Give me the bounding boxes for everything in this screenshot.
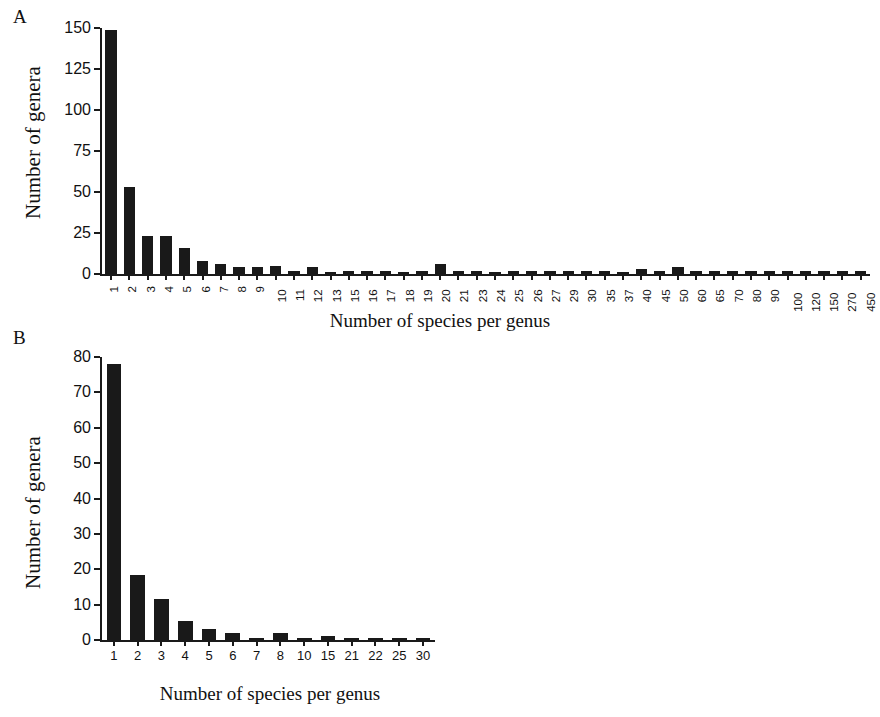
panel-b-plot-area: 01020304050607080 12345678101521222530 [100, 357, 435, 642]
bar [489, 272, 500, 274]
bar-slot [212, 28, 230, 274]
y-tick-label: 0 [82, 632, 91, 648]
x-tick-mark [232, 642, 234, 646]
x-tick-label: 2 [134, 649, 141, 662]
x-tick-label: 30 [416, 649, 430, 662]
bar-slot [760, 28, 778, 274]
x-tick-label: 100 [792, 293, 804, 312]
y-tick-label: 0 [82, 266, 91, 282]
bar [273, 633, 288, 640]
bar-slot [245, 357, 269, 640]
x-tick-mark [202, 276, 204, 280]
panel-a: A Number of genera 0255075100125150 1234… [0, 0, 880, 340]
panel-b-letter: B [13, 327, 26, 349]
bar-slot [193, 28, 211, 274]
bar [526, 271, 537, 274]
y-tick-mark [94, 109, 100, 111]
bar-slot [486, 28, 504, 274]
x-tick-label: 20 [442, 289, 454, 302]
x-tick-mark [238, 276, 240, 280]
bar [818, 271, 829, 274]
bar [544, 271, 555, 274]
bar-slot [267, 28, 285, 274]
y-tick-mark [94, 498, 100, 500]
y-tick-mark [94, 68, 100, 70]
x-tick-mark [327, 642, 329, 646]
x-tick-label: 7 [253, 649, 260, 662]
bar [233, 267, 244, 274]
panel-a-bars [102, 28, 870, 274]
bar-slot [742, 28, 760, 274]
bar-slot [126, 357, 150, 640]
x-tick-label: 2 [128, 286, 140, 292]
x-tick-label: 120 [810, 293, 822, 312]
x-tick-label: 12 [314, 289, 326, 302]
x-tick-label: 45 [661, 289, 673, 302]
x-tick-label: 270 [847, 293, 859, 312]
bar-slot [395, 28, 413, 274]
bar-slot [197, 357, 221, 640]
x-tick-label: 1 [110, 649, 117, 662]
bar-slot [175, 28, 193, 274]
y-tick-label: 80 [73, 349, 91, 365]
x-tick-label: 4 [182, 649, 189, 662]
bar-slot [596, 28, 614, 274]
bar [178, 621, 193, 640]
x-tick-mark [147, 276, 149, 280]
y-tick-label: 50 [73, 184, 91, 200]
x-tick-label: 23 [478, 289, 490, 302]
x-tick-mark [823, 276, 825, 280]
x-tick-mark [677, 276, 679, 280]
x-tick-label: 3 [146, 286, 158, 292]
bar-slot [248, 28, 266, 274]
figure-container: A Number of genera 0255075100125150 1234… [0, 0, 880, 717]
bar [105, 30, 116, 274]
bar-slot [778, 28, 796, 274]
bar [344, 638, 359, 640]
x-tick-mark [330, 276, 332, 280]
bar-slot [285, 28, 303, 274]
bar [368, 638, 383, 640]
y-tick-mark [94, 273, 100, 275]
x-tick-label: 22 [368, 649, 382, 662]
x-tick-label: 19 [423, 289, 435, 302]
bar-slot [292, 357, 316, 640]
y-tick-label: 50 [73, 455, 91, 471]
x-tick-mark [348, 276, 350, 280]
bar [197, 261, 208, 274]
bar [398, 272, 409, 274]
x-tick-mark [494, 276, 496, 280]
bar [453, 271, 464, 274]
x-tick-mark [351, 642, 353, 646]
x-tick-mark [713, 276, 715, 280]
bar-slot [139, 28, 157, 274]
bar [343, 271, 354, 274]
bar [636, 269, 647, 274]
x-tick-mark [220, 276, 222, 280]
bar [654, 271, 665, 274]
bar [380, 271, 391, 274]
x-tick-label: 65 [716, 289, 728, 302]
x-tick-label: 6 [229, 649, 236, 662]
x-tick-label: 13 [332, 289, 344, 302]
x-tick-mark [439, 276, 441, 280]
panel-a-x-axis-line [100, 274, 870, 276]
bar [202, 629, 217, 640]
x-tick-label: 25 [515, 289, 527, 302]
bar-slot [316, 357, 340, 640]
panel-b-y-axis-title: Number of genera [21, 418, 46, 608]
x-tick-label: 60 [698, 289, 710, 302]
y-tick-mark [94, 232, 100, 234]
bar-slot [102, 357, 126, 640]
x-tick-mark [113, 642, 115, 646]
x-tick-mark [622, 276, 624, 280]
x-tick-label: 70 [734, 289, 746, 302]
x-tick-label: 24 [496, 289, 508, 302]
bar-slot [431, 28, 449, 274]
bar [471, 271, 482, 274]
bar-slot [650, 28, 668, 274]
x-tick-label: 15 [350, 289, 362, 302]
x-tick-label: 15 [321, 649, 335, 662]
bar-slot [687, 28, 705, 274]
bar-slot [221, 357, 245, 640]
